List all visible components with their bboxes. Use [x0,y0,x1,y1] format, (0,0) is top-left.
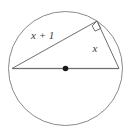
center-dot [63,66,69,72]
label-short-leg: x [92,42,98,54]
geometry-figure: x + 1 x [0,0,128,129]
label-long-leg: x + 1 [30,29,54,41]
geometry-canvas: x + 1 x [0,0,128,129]
inscribed-triangle [12,21,119,69]
